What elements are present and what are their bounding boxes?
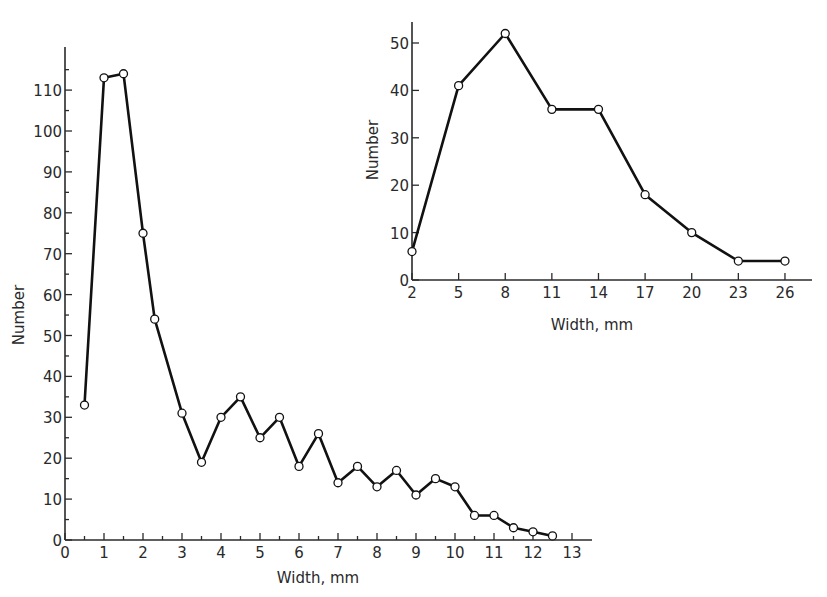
main-series-line bbox=[85, 74, 553, 536]
inset-y-axis-label: Number bbox=[364, 119, 382, 180]
main-y-axis-label: Number bbox=[10, 284, 28, 345]
x-tick-label: 11 bbox=[484, 544, 503, 562]
data-point-marker bbox=[455, 82, 463, 90]
x-tick-label: 11 bbox=[542, 284, 561, 302]
x-tick-label: 26 bbox=[775, 284, 794, 302]
y-tick-label: 0 bbox=[399, 272, 409, 290]
x-tick-label: 9 bbox=[411, 544, 421, 562]
data-point-marker bbox=[276, 413, 284, 421]
data-point-marker bbox=[451, 483, 459, 491]
main-tick-labels: 0123456789101112130102030405060708090100… bbox=[33, 82, 581, 562]
main-x-axis-label: Width, mm bbox=[277, 569, 359, 587]
data-point-marker bbox=[529, 528, 537, 536]
inset-axes bbox=[412, 22, 812, 280]
data-point-marker bbox=[641, 191, 649, 199]
main-chart: 0123456789101112130102030405060708090100… bbox=[10, 47, 592, 587]
inset-series-line bbox=[412, 34, 785, 262]
x-tick-label: 6 bbox=[294, 544, 304, 562]
y-tick-label: 80 bbox=[43, 205, 62, 223]
y-tick-label: 40 bbox=[43, 368, 62, 386]
y-tick-label: 50 bbox=[43, 328, 62, 346]
data-point-marker bbox=[295, 462, 303, 470]
x-tick-label: 3 bbox=[177, 544, 187, 562]
x-tick-label: 20 bbox=[682, 284, 701, 302]
main-axes bbox=[65, 47, 592, 540]
y-tick-label: 0 bbox=[52, 532, 62, 550]
inset-chart: 25811141720232601020304050 Width, mm Num… bbox=[364, 22, 812, 334]
data-point-marker bbox=[373, 483, 381, 491]
y-tick-label: 60 bbox=[43, 287, 62, 305]
data-point-marker bbox=[432, 475, 440, 483]
x-tick-label: 1 bbox=[99, 544, 109, 562]
y-tick-label: 30 bbox=[390, 130, 409, 148]
x-tick-label: 8 bbox=[500, 284, 510, 302]
inset-ticks bbox=[412, 43, 785, 280]
data-point-marker bbox=[354, 462, 362, 470]
data-point-marker bbox=[548, 105, 556, 113]
main-ticks bbox=[65, 70, 572, 540]
x-tick-label: 2 bbox=[138, 544, 148, 562]
data-point-marker bbox=[237, 393, 245, 401]
data-point-marker bbox=[734, 257, 742, 265]
y-tick-label: 50 bbox=[390, 35, 409, 53]
data-point-marker bbox=[315, 430, 323, 438]
data-point-marker bbox=[781, 257, 789, 265]
data-point-marker bbox=[198, 458, 206, 466]
inset-series-markers bbox=[408, 30, 789, 266]
data-point-marker bbox=[151, 315, 159, 323]
data-point-marker bbox=[334, 479, 342, 487]
x-tick-label: 5 bbox=[255, 544, 265, 562]
data-point-marker bbox=[408, 248, 416, 256]
y-tick-label: 110 bbox=[33, 82, 62, 100]
y-tick-label: 40 bbox=[390, 82, 409, 100]
x-tick-label: 23 bbox=[729, 284, 748, 302]
data-point-marker bbox=[178, 409, 186, 417]
x-tick-label: 4 bbox=[216, 544, 226, 562]
x-tick-label: 13 bbox=[562, 544, 581, 562]
y-tick-label: 20 bbox=[43, 450, 62, 468]
data-point-marker bbox=[471, 511, 479, 519]
y-tick-label: 10 bbox=[43, 491, 62, 509]
data-point-marker bbox=[100, 74, 108, 82]
x-tick-label: 14 bbox=[589, 284, 608, 302]
data-point-marker bbox=[81, 401, 89, 409]
y-tick-label: 100 bbox=[33, 123, 62, 141]
data-point-marker bbox=[217, 413, 225, 421]
data-point-marker bbox=[549, 532, 557, 540]
figure-canvas: 0123456789101112130102030405060708090100… bbox=[0, 0, 827, 597]
x-tick-label: 8 bbox=[372, 544, 382, 562]
y-tick-label: 10 bbox=[390, 225, 409, 243]
y-tick-label: 30 bbox=[43, 409, 62, 427]
inset-x-axis-label: Width, mm bbox=[551, 316, 633, 334]
data-point-marker bbox=[139, 229, 147, 237]
data-point-marker bbox=[490, 511, 498, 519]
data-point-marker bbox=[256, 434, 264, 442]
x-tick-label: 12 bbox=[523, 544, 542, 562]
y-tick-label: 70 bbox=[43, 246, 62, 264]
data-point-marker bbox=[412, 491, 420, 499]
y-tick-label: 20 bbox=[390, 177, 409, 195]
y-tick-label: 90 bbox=[43, 164, 62, 182]
x-tick-label: 5 bbox=[454, 284, 464, 302]
x-tick-label: 17 bbox=[636, 284, 655, 302]
data-point-marker bbox=[393, 466, 401, 474]
data-point-marker bbox=[120, 70, 128, 78]
x-tick-label: 10 bbox=[445, 544, 464, 562]
x-tick-label: 7 bbox=[333, 544, 343, 562]
data-point-marker bbox=[688, 229, 696, 237]
data-point-marker bbox=[510, 524, 518, 532]
data-point-marker bbox=[594, 105, 602, 113]
data-point-marker bbox=[501, 30, 509, 38]
